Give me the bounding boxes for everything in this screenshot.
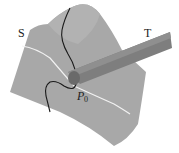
tube-end bbox=[68, 71, 80, 85]
label-t: T bbox=[144, 26, 152, 40]
label-s: S bbox=[18, 26, 25, 40]
diagram-canvas: S T P 0 bbox=[0, 0, 179, 153]
label-p-subscript: 0 bbox=[84, 95, 88, 104]
